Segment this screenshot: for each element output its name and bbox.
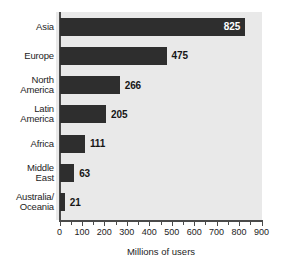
- x-tick-major: [262, 222, 263, 227]
- bar-track: 111: [60, 129, 262, 158]
- x-tick-minor: [205, 222, 206, 225]
- x-tick-minor: [183, 222, 184, 225]
- x-tick-label: 800: [232, 227, 247, 237]
- bar-value-label: 21: [70, 197, 81, 208]
- x-tick-major: [149, 222, 150, 227]
- bar-track: 21: [60, 188, 262, 217]
- bar-track: 266: [60, 71, 262, 100]
- category-label: Africa: [0, 139, 54, 149]
- x-tick-major: [127, 222, 128, 227]
- category-label: NorthAmerica: [0, 75, 54, 95]
- bar: 825: [60, 18, 245, 36]
- bar: [60, 135, 85, 153]
- category-label-line: Asia: [0, 22, 54, 32]
- category-label: Asia: [0, 22, 54, 32]
- category-label: Europe: [0, 51, 54, 61]
- x-tick-label: 900: [254, 227, 269, 237]
- x-tick-minor: [93, 222, 94, 225]
- x-tick-minor: [71, 222, 72, 225]
- bar-value-label: 205: [111, 109, 127, 120]
- x-tick-major: [172, 222, 173, 227]
- bar: [60, 164, 74, 182]
- bar: [60, 105, 106, 123]
- category-label-line: East: [0, 173, 54, 183]
- category-label-line: Oceania: [0, 202, 54, 212]
- bar-track: 205: [60, 100, 262, 129]
- x-tick-major: [217, 222, 218, 227]
- x-tick-major: [82, 222, 83, 227]
- x-tick-label: 100: [74, 227, 89, 237]
- bar-track: 475: [60, 41, 262, 70]
- bar-value-label: 266: [125, 80, 141, 91]
- category-label: LatinAmerica: [0, 104, 54, 124]
- bar-row: Asia825: [0, 12, 283, 41]
- category-label-line: America: [0, 85, 54, 95]
- bar-row: Australia/Oceania21: [0, 188, 283, 217]
- bar-track: 63: [60, 158, 262, 187]
- bar-value-label: 111: [90, 138, 105, 149]
- bar-chart: Asia825Europe475NorthAmerica266LatinAmer…: [0, 0, 283, 271]
- bar-row: MiddleEast63: [0, 158, 283, 187]
- x-tick-label: 600: [187, 227, 202, 237]
- bar-row: Europe475: [0, 41, 283, 70]
- bar-row: NorthAmerica266: [0, 71, 283, 100]
- x-tick-label: 300: [119, 227, 134, 237]
- category-label: Australia/Oceania: [0, 192, 54, 212]
- x-tick-minor: [228, 222, 229, 225]
- x-tick-major: [60, 222, 61, 227]
- x-tick-minor: [161, 222, 162, 225]
- bar: [60, 76, 120, 94]
- x-tick-label: 0: [57, 227, 62, 237]
- category-label-line: Africa: [0, 139, 54, 149]
- x-tick-major: [239, 222, 240, 227]
- bar-row: Africa111: [0, 129, 283, 158]
- bar-value-label: 475: [172, 50, 188, 61]
- x-tick-label: 400: [142, 227, 157, 237]
- bar-value-label: 63: [79, 168, 90, 179]
- bar: [60, 193, 65, 211]
- category-label-line: America: [0, 114, 54, 124]
- x-tick-label: 500: [164, 227, 179, 237]
- bar-track: 825: [60, 12, 262, 41]
- category-label-line: Europe: [0, 51, 54, 61]
- x-tick-minor: [250, 222, 251, 225]
- x-tick-minor: [138, 222, 139, 225]
- bar: [60, 47, 167, 65]
- category-label: MiddleEast: [0, 163, 54, 183]
- x-tick-label: 200: [97, 227, 112, 237]
- x-tick-label: 700: [209, 227, 224, 237]
- x-tick-major: [104, 222, 105, 227]
- x-axis-title: Millions of users: [59, 246, 263, 257]
- x-tick-major: [194, 222, 195, 227]
- bar-rows: Asia825Europe475NorthAmerica266LatinAmer…: [0, 12, 283, 217]
- x-tick-minor: [116, 222, 117, 225]
- bar-row: LatinAmerica205: [0, 100, 283, 129]
- bar-value-label: 825: [224, 21, 245, 32]
